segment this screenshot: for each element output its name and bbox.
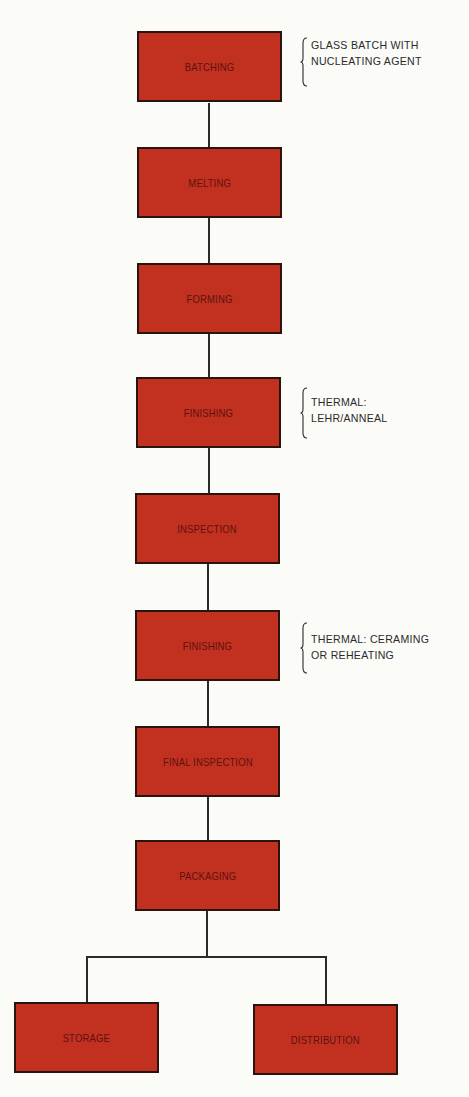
step-distribution: DISTRIBUTION xyxy=(253,1004,398,1075)
connector-packaging-branch xyxy=(206,911,208,958)
connector-final-inspection-packaging xyxy=(207,796,209,841)
connector-batching-melting xyxy=(208,103,210,148)
note-line: THERMAL: xyxy=(311,394,388,410)
step-forming: FORMING xyxy=(137,263,282,334)
step-label: FINISHING xyxy=(184,407,233,419)
step-label: FINISHING xyxy=(183,640,232,652)
step-final-inspection: FINAL INSPECTION xyxy=(135,726,280,797)
branch-horizontal-line xyxy=(86,956,327,958)
step-label: DISTRIBUTION xyxy=(291,1034,360,1046)
connector-melting-forming xyxy=(208,218,210,263)
step-finishing-thermal-anneal: FINISHING xyxy=(136,377,281,448)
note-finishing-ceraming: THERMAL: CERAMING OR REHEATING xyxy=(311,631,429,663)
step-packaging: PACKAGING xyxy=(135,840,280,911)
connector-finishing-inspection xyxy=(208,448,210,494)
step-finishing-ceraming: FINISHING xyxy=(135,610,280,681)
step-inspection: INSPECTION xyxy=(135,493,280,564)
step-label: STORAGE xyxy=(63,1032,110,1044)
curly-brace-icon xyxy=(300,37,308,87)
connector-finishing-final-inspection xyxy=(207,681,209,726)
step-label: FORMING xyxy=(187,293,233,305)
note-batching: GLASS BATCH WITH NUCLEATING AGENT xyxy=(311,37,422,69)
step-batching: BATCHING xyxy=(137,31,282,102)
connector-forming-finishing xyxy=(208,334,210,377)
note-line: LEHR/ANNEAL xyxy=(311,410,388,426)
curly-brace-icon xyxy=(300,622,308,674)
note-line: GLASS BATCH WITH xyxy=(311,37,422,53)
step-label: INSPECTION xyxy=(178,523,238,535)
step-label: MELTING xyxy=(188,177,231,189)
note-finishing-anneal: THERMAL: LEHR/ANNEAL xyxy=(311,394,388,426)
step-storage: STORAGE xyxy=(14,1002,159,1073)
step-label: PACKAGING xyxy=(179,870,236,882)
note-line: THERMAL: CERAMING xyxy=(311,631,429,647)
connector-inspection-finishing xyxy=(207,564,209,611)
step-label: BATCHING xyxy=(185,61,235,73)
connector-branch-distribution xyxy=(325,956,327,1004)
connector-branch-storage xyxy=(86,956,88,1003)
note-line: NUCLEATING AGENT xyxy=(311,53,422,69)
step-label: FINAL INSPECTION xyxy=(163,756,253,768)
curly-brace-icon xyxy=(300,387,308,439)
note-line: OR REHEATING xyxy=(311,647,429,663)
step-melting: MELTING xyxy=(137,147,282,218)
